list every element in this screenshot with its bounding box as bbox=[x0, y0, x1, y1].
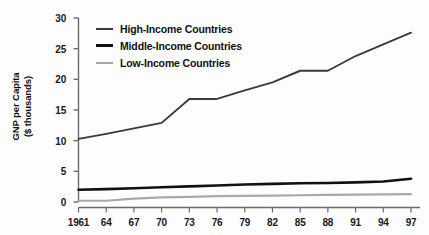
x-axis-tick-label: 67 bbox=[129, 217, 140, 228]
legend-item-label: Middle-Income Countries bbox=[120, 40, 242, 52]
legend-line-swatch bbox=[96, 28, 113, 30]
legend-item: Middle-Income Countries bbox=[96, 38, 242, 53]
x-axis-tick-label: 97 bbox=[406, 217, 417, 228]
legend-item-label: High-Income Countries bbox=[120, 23, 232, 35]
x-axis-tick-label: 94 bbox=[378, 217, 389, 228]
x-axis-tick-label: 76 bbox=[212, 217, 223, 228]
x-axis-tick-label: 1961 bbox=[68, 217, 89, 228]
x-axis-tick-label: 70 bbox=[156, 217, 167, 228]
series-line bbox=[79, 194, 412, 201]
legend-item-label: Low-Income Countries bbox=[120, 57, 230, 69]
x-axis-tick-labels: 1961646770737679828588919497 bbox=[0, 210, 429, 228]
legend-item: Low-Income Countries bbox=[96, 55, 242, 70]
x-axis-tick-label: 85 bbox=[295, 217, 306, 228]
chart-figure: GNP per Capita ($ thousands) 05101520253… bbox=[0, 0, 429, 235]
x-axis-tick-label: 79 bbox=[239, 217, 250, 228]
x-axis-tick-label: 88 bbox=[323, 217, 334, 228]
x-axis-tick-label: 91 bbox=[350, 217, 361, 228]
x-axis-tick-label: 82 bbox=[267, 217, 278, 228]
legend-line-swatch bbox=[96, 44, 113, 47]
legend-item: High-Income Countries bbox=[96, 21, 242, 36]
chart-legend: High-Income CountriesMiddle-Income Count… bbox=[96, 21, 242, 70]
x-axis-tick-label: 64 bbox=[101, 217, 112, 228]
x-axis-tick-label: 73 bbox=[184, 217, 195, 228]
y-axis-ticks bbox=[74, 18, 79, 202]
legend-line-swatch bbox=[96, 62, 113, 64]
series-line bbox=[79, 179, 412, 190]
